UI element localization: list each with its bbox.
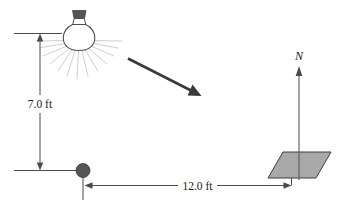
light-direction-arrow-group [128,59,202,97]
horizontal-dimension-label: 12.0 ft [182,180,213,192]
normal-vector-arrow-icon [296,66,303,76]
height-arrow-down-icon [37,163,43,171]
horizontal-arrow-right-icon [284,182,292,188]
diagram-canvas: 7.0 ft 12.0 ft [0,0,351,211]
physics-diagram: 7.0 ft 12.0 ft [0,0,351,211]
light-bulb [63,11,95,51]
bulb-neck [73,19,86,25]
horizontal-arrow-left-icon [85,182,93,188]
normal-vector-label: N [294,49,304,63]
bulb-glass-icon [63,25,95,51]
bulb-cap-icon [73,11,87,19]
height-dimension-label: 7.0 ft [28,98,53,110]
horizontal-dimension-group: 12.0 ft [85,165,292,192]
light-direction-arrow-shaft [128,59,192,92]
reference-point-ball [76,164,90,178]
height-arrow-up-icon [37,34,43,42]
reference-point-ball-group [76,164,90,201]
